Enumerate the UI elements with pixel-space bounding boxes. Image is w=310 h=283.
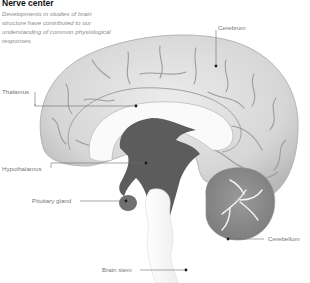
dot-cerebellum — [227, 238, 230, 241]
brain-illustration — [0, 0, 310, 283]
label-cerebrum: Cerebrum — [218, 24, 246, 31]
pituitary-gland — [119, 195, 137, 211]
label-hypothalamus: Hypothalamus — [2, 165, 42, 172]
dot-cerebrum — [215, 65, 218, 68]
cerebellum — [206, 168, 275, 240]
dot-hypothalamus — [145, 162, 148, 165]
dot-thalamus — [135, 105, 138, 108]
dot-pituitary — [125, 200, 128, 203]
dot-brain-stem — [185, 269, 188, 272]
label-cerebellum: Cerebellum — [268, 235, 300, 242]
label-pituitary-gland: Pituitary gland — [32, 197, 71, 204]
label-thalamus: Thalamus — [2, 88, 29, 95]
label-brain-stem: Brain stem — [102, 266, 132, 273]
